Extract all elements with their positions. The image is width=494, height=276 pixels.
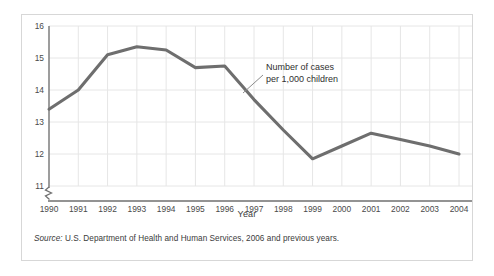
y-tick-label: 14 (35, 85, 45, 95)
axis-break-mark (46, 187, 52, 200)
y-tick-label: 12 (35, 149, 45, 159)
y-tick-label: 11 (35, 181, 44, 191)
chart-plot-area: 1112131415161990199119921993199419951996… (22, 15, 474, 215)
y-tick-label: 15 (35, 53, 45, 63)
source-note: Source: U.S. Department of Health and Hu… (34, 234, 339, 243)
y-tick-label: 16 (35, 21, 45, 31)
line-chart-svg: 1112131415161990199119921993199419951996… (22, 15, 474, 215)
source-text: U.S. Department of Health and Human Serv… (63, 234, 340, 243)
source-label: Source: (34, 234, 63, 243)
annotation-line-1: Number of cases (266, 62, 335, 72)
annotation-line-2: per 1,000 children (266, 74, 338, 84)
figure-container: 1112131415161990199119921993199419951996… (21, 14, 473, 261)
x-axis-title: Year (22, 209, 472, 219)
y-tick-label: 13 (35, 117, 45, 127)
